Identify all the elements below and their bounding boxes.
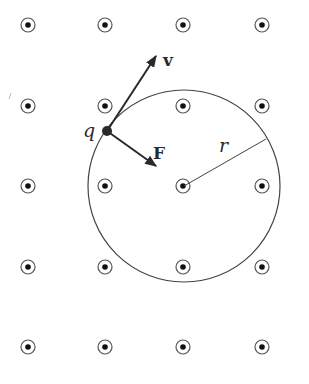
field-out-of-page-icon [21,99,35,113]
field-out-of-page-icon [21,179,35,193]
radius-label: r [219,134,230,156]
velocity-arrow [107,56,156,131]
field-out-of-page-icon [255,18,269,32]
field-out-of-page-icon [98,99,112,113]
charge-label: q [83,119,95,141]
velocity-label: v [162,50,174,70]
field-out-of-page-icon [255,99,269,113]
field-out-of-page-icon [98,18,112,32]
force-label: F [153,143,165,163]
force-arrow [107,131,156,166]
field-out-of-page-icon [255,179,269,193]
magnetic-field-diagram: v F q r [0,0,309,384]
field-out-of-page-icon [255,340,269,354]
charge-particle [102,126,112,136]
field-out-of-page-icon [98,260,112,274]
field-out-of-page-icon [21,18,35,32]
stray-mark [9,93,11,99]
field-out-of-page-icon [98,340,112,354]
field-out-of-page-icon [21,260,35,274]
magnetic-field-symbols [21,18,269,354]
field-out-of-page-icon [176,18,190,32]
field-out-of-page-icon [176,99,190,113]
field-out-of-page-icon [176,179,190,193]
field-out-of-page-icon [255,260,269,274]
field-out-of-page-icon [176,340,190,354]
field-out-of-page-icon [21,340,35,354]
field-out-of-page-icon [98,179,112,193]
field-out-of-page-icon [176,260,190,274]
